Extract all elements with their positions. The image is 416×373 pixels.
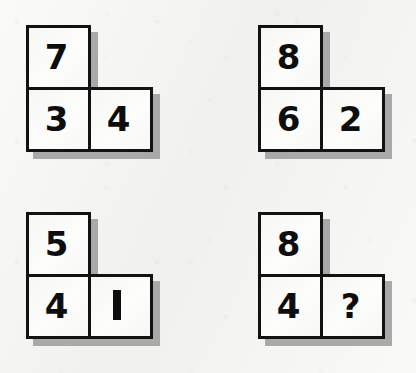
tile-bottom-right[interactable]: 1 bbox=[88, 274, 153, 339]
tile-value: 4 bbox=[261, 277, 320, 336]
tile-bottom-right[interactable]: 4 bbox=[88, 87, 153, 152]
tile-group-bottom-left: 5 4 1 bbox=[26, 212, 166, 350]
tile-group-top-right: 8 6 2 bbox=[258, 25, 398, 163]
tile-value: 3 bbox=[29, 90, 88, 149]
tile-value: 2 bbox=[323, 90, 382, 149]
tile-bottom-left[interactable]: 6 bbox=[258, 87, 323, 152]
tile-value: 6 bbox=[261, 90, 320, 149]
tile-top[interactable]: 5 bbox=[26, 212, 91, 277]
tile-missing-value[interactable]: ? bbox=[320, 274, 385, 339]
tile-bottom-right[interactable]: 2 bbox=[320, 87, 385, 152]
tile-group-bottom-right: 8 4 ? bbox=[258, 212, 398, 350]
tile-value: 4 bbox=[91, 90, 150, 149]
tile-value: 7 bbox=[29, 28, 88, 87]
tile-bottom-left[interactable]: 4 bbox=[26, 274, 91, 339]
tile-group-top-left: 7 3 4 bbox=[26, 25, 166, 163]
tile-value: 1 bbox=[91, 277, 150, 336]
tile-value: 5 bbox=[29, 215, 88, 274]
puzzle-board: 7 3 4 8 6 2 bbox=[0, 0, 416, 373]
tile-bottom-left[interactable]: 4 bbox=[258, 274, 323, 339]
tile-top[interactable]: 8 bbox=[258, 212, 323, 277]
question-mark-value: ? bbox=[323, 277, 382, 336]
tile-value: 4 bbox=[29, 277, 88, 336]
tile-bottom-left[interactable]: 3 bbox=[26, 87, 91, 152]
tile-value: 8 bbox=[261, 28, 320, 87]
tile-top[interactable]: 7 bbox=[26, 25, 91, 90]
tile-top[interactable]: 8 bbox=[258, 25, 323, 90]
tile-value: 8 bbox=[261, 215, 320, 274]
